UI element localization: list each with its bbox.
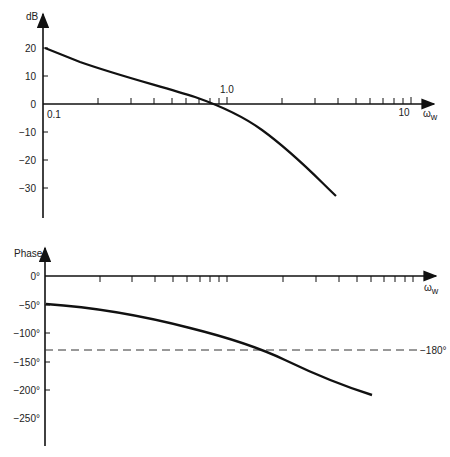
magnitude-xtick-1.0: 1.0: [220, 84, 234, 95]
magnitude-curve: [45, 48, 336, 196]
phase-ytick-m250: −250°: [13, 413, 40, 424]
magnitude-ytick-m30: −30: [19, 183, 36, 194]
phase-reference-label: −180°: [420, 345, 447, 356]
magnitude-xtick-10: 10: [398, 107, 410, 118]
phase-ytick-m150: −150°: [13, 357, 40, 368]
magnitude-x-ticks: [98, 97, 411, 104]
phase-ytick-m50: −50°: [19, 300, 40, 311]
magnitude-chart: dB 20 10 0 −10 −20 −30: [19, 11, 438, 218]
magnitude-y-label: dB: [26, 11, 39, 22]
magnitude-ytick-0: 0: [30, 99, 36, 110]
magnitude-x-label: ωw: [423, 108, 438, 122]
phase-y-label: Phase: [14, 248, 43, 259]
phase-chart: Phase 0° −50° −100° −150° −200° −250°: [13, 248, 446, 446]
phase-ytick-m200: −200°: [13, 385, 40, 396]
magnitude-ytick-m20: −20: [19, 155, 36, 166]
magnitude-ytick-m10: −10: [19, 127, 36, 138]
magnitude-ytick-10: 10: [25, 71, 37, 82]
magnitude-ytick-20: 20: [25, 43, 37, 54]
phase-x-label: ωw: [424, 282, 439, 296]
phase-x-ticks: [100, 276, 413, 282]
magnitude-xtick-0.1: 0.1: [47, 109, 61, 120]
phase-ytick-m100: −100°: [13, 328, 40, 339]
bode-plot: dB 20 10 0 −10 −20 −30: [0, 0, 450, 457]
phase-ytick-0: 0°: [30, 271, 40, 282]
